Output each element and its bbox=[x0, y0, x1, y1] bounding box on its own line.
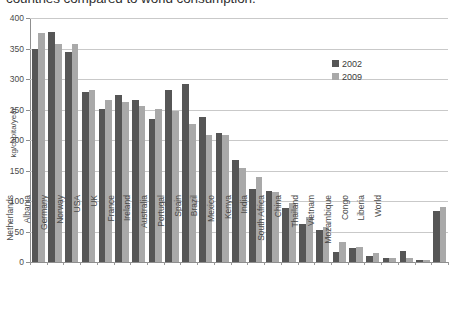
x-axis-label: Congo bbox=[340, 195, 350, 265]
y-axis-tick-label: 400 bbox=[10, 13, 24, 23]
bar-2002[interactable] bbox=[32, 49, 39, 263]
x-axis-label: Ireland bbox=[122, 195, 132, 265]
legend-item-2009: 2009 bbox=[332, 70, 362, 83]
x-axis-label: France bbox=[106, 195, 116, 265]
x-axis-tick bbox=[448, 262, 449, 265]
legend-swatch-icon bbox=[332, 60, 339, 67]
bar-2002[interactable] bbox=[299, 224, 306, 262]
x-axis-label: Vietnam bbox=[306, 195, 316, 265]
bar-2002[interactable] bbox=[249, 189, 256, 262]
bar-2002[interactable] bbox=[216, 133, 223, 262]
bar-group[interactable] bbox=[415, 18, 432, 262]
x-axis-label: China bbox=[273, 195, 283, 265]
bar-2002[interactable] bbox=[132, 100, 139, 262]
x-axis-label: Thailand bbox=[290, 195, 300, 265]
bar-group[interactable] bbox=[398, 18, 415, 262]
bar-group[interactable] bbox=[431, 18, 448, 262]
x-axis-label: Spain bbox=[173, 195, 183, 265]
x-axis-label: Australia bbox=[139, 195, 149, 265]
legend-swatch-icon bbox=[332, 73, 339, 80]
bar-2002[interactable] bbox=[149, 119, 156, 262]
x-axis-label: Albania bbox=[22, 195, 32, 265]
bar-2002[interactable] bbox=[182, 84, 189, 262]
x-axis-label: World bbox=[373, 195, 383, 265]
chart-legend: 2002 2009 bbox=[332, 57, 362, 83]
x-axis-label: Mexico bbox=[206, 195, 216, 265]
x-axis-label: Germany bbox=[39, 195, 49, 265]
bar-2009[interactable] bbox=[423, 260, 430, 262]
bar-2002[interactable] bbox=[199, 117, 206, 262]
legend-label-2002: 2002 bbox=[342, 59, 362, 69]
bar-2002[interactable] bbox=[316, 230, 323, 262]
bar-2002[interactable] bbox=[383, 258, 390, 262]
bar-2002[interactable] bbox=[416, 260, 423, 262]
bar-2002[interactable] bbox=[282, 208, 289, 262]
bar-2002[interactable] bbox=[333, 252, 340, 262]
x-axis-label: UK bbox=[89, 195, 99, 265]
y-axis-tick-label: 300 bbox=[10, 74, 24, 84]
bar-2002[interactable] bbox=[232, 160, 239, 262]
bar-2002[interactable] bbox=[165, 90, 172, 262]
bar-chart-figure: kg/capita/year 050100150200250300350400 … bbox=[0, 10, 453, 328]
x-axis-label: South Africa bbox=[256, 195, 266, 265]
x-axis-label: Norway bbox=[55, 195, 65, 265]
y-axis-tick-label: 250 bbox=[10, 105, 24, 115]
x-axis-label: Portugal bbox=[156, 195, 166, 265]
y-axis-tick-label: 200 bbox=[10, 135, 24, 145]
x-axis-labels: FinlandSwedenNetherlandsAlbaniaGermanyNo… bbox=[30, 265, 448, 328]
bar-2009[interactable] bbox=[440, 207, 447, 262]
bar-2009[interactable] bbox=[389, 258, 396, 262]
x-axis-label: Mozambique bbox=[323, 195, 333, 265]
x-axis-label: India bbox=[239, 195, 249, 265]
bar-2002[interactable] bbox=[366, 256, 373, 262]
x-axis-label: USA bbox=[72, 195, 82, 265]
x-axis-label: Brazil bbox=[189, 195, 199, 265]
bar-2002[interactable] bbox=[266, 191, 273, 262]
x-axis-label: Kenya bbox=[223, 195, 233, 265]
y-axis-tick-label: 350 bbox=[10, 44, 24, 54]
bar-2009[interactable] bbox=[406, 258, 413, 262]
bar-2002[interactable] bbox=[82, 92, 89, 262]
bar-2002[interactable] bbox=[65, 52, 72, 262]
legend-label-2009: 2009 bbox=[342, 72, 362, 82]
bar-2002[interactable] bbox=[99, 109, 106, 262]
x-axis-label: Liberia bbox=[356, 195, 366, 265]
y-axis-tick-label: 150 bbox=[10, 166, 24, 176]
bar-2002[interactable] bbox=[400, 251, 407, 262]
figure-caption: countries compared to world consumption. bbox=[6, 0, 256, 6]
bar-2002[interactable] bbox=[433, 211, 440, 262]
bar-group[interactable] bbox=[381, 18, 398, 262]
legend-item-2002: 2002 bbox=[332, 57, 362, 70]
bar-2002[interactable] bbox=[115, 95, 122, 262]
x-axis-label: Netherlands bbox=[5, 195, 15, 265]
